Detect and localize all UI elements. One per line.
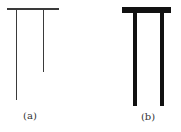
panel-a-left-leg <box>16 8 18 100</box>
panel-a-label: (a) <box>23 110 37 121</box>
figure: (a) (b) <box>0 0 181 132</box>
panel-a-right-leg <box>43 8 45 72</box>
panel-b-label: (b) <box>141 111 155 122</box>
panel-b-right-leg <box>160 7 165 106</box>
panel-b-left-leg <box>133 7 138 106</box>
